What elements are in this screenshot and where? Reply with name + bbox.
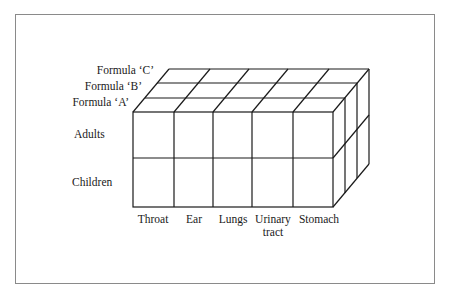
layer-label-formula-c: Formula ‘C’ — [97, 64, 154, 76]
column-label-tract: tract — [249, 227, 297, 238]
top-face — [133, 69, 369, 112]
column-label-urinary-tract: Urinary tract — [249, 214, 297, 238]
front-face — [133, 112, 333, 207]
column-label-stomach: Stomach — [292, 214, 346, 225]
row-label-adults: Adults — [74, 128, 105, 140]
row-label-children: Children — [72, 176, 112, 188]
layer-label-formula-b: Formula ‘B’ — [85, 80, 142, 92]
layer-label-formula-a: Formula ‘A’ — [72, 96, 129, 108]
column-label-urinary: Urinary — [249, 214, 297, 225]
cube-diagram — [0, 0, 451, 297]
